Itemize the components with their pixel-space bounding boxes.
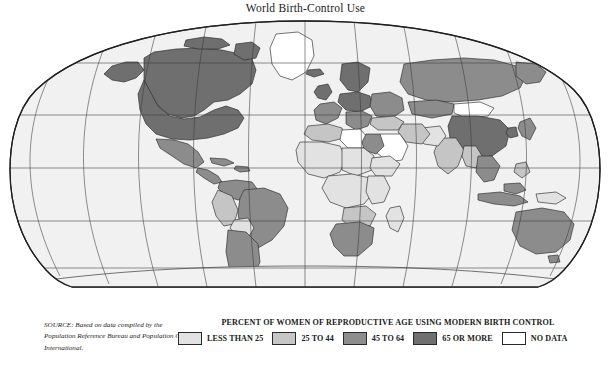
world-map-figure	[8, 18, 603, 308]
map-legend: PERCENT OF WOMEN OF REPRODUCTIVE AGE USI…	[178, 318, 598, 345]
legend-item-25-to-44: 25 TO 44	[272, 332, 333, 345]
legend-label-less-than-25: LESS THAN 25	[207, 334, 263, 343]
legend-swatch-25-to-44	[272, 332, 296, 345]
legend-label-25-to-44: 25 TO 44	[301, 334, 333, 343]
source-note: SOURCE: Based on data compiled by the Po…	[44, 320, 194, 354]
legend-label-no-data: NO DATA	[531, 334, 568, 343]
legend-item-no-data: NO DATA	[502, 332, 568, 345]
legend-item-45-to-64: 45 TO 64	[343, 332, 404, 345]
legend-swatch-less-than-25	[178, 332, 202, 345]
legend-item-less-than-25: LESS THAN 25	[178, 332, 263, 345]
legend-title: PERCENT OF WOMEN OF REPRODUCTIVE AGE USI…	[178, 318, 598, 327]
legend-swatch-65-or-more	[413, 332, 437, 345]
legend-label-45-to-64: 45 TO 64	[372, 334, 404, 343]
legend-items: LESS THAN 25 25 TO 44 45 TO 64 65 OR MOR…	[178, 332, 598, 345]
page-title: World Birth-Control Use	[0, 2, 611, 14]
legend-item-65-or-more: 65 OR MORE	[413, 332, 492, 345]
legend-label-65-or-more: 65 OR MORE	[442, 334, 492, 343]
legend-swatch-no-data	[502, 332, 526, 345]
legend-swatch-45-to-64	[343, 332, 367, 345]
